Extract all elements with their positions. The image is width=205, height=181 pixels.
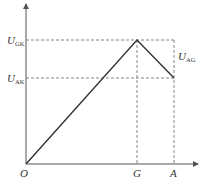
g-label: G (133, 167, 141, 179)
ugk-label: UGK (7, 34, 25, 47)
diagram-canvas: UGK UAK UAG O G A (0, 0, 205, 181)
uag-label: UAG (178, 50, 196, 63)
origin-label: O (20, 167, 28, 179)
uak-label: UAK (7, 72, 25, 85)
a-label: A (169, 167, 177, 179)
potential-curve (26, 40, 174, 164)
